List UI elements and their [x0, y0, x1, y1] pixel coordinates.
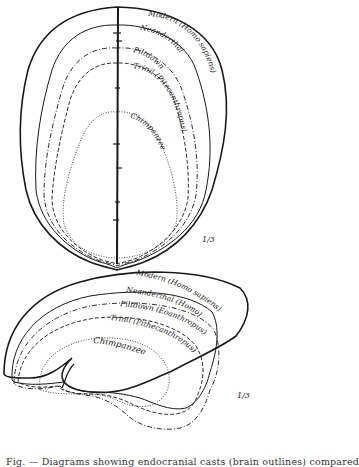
side-view-labels: Modern (Homo sapiens) Neanderthal (Homo)… — [93, 268, 224, 357]
figure-caption: Fig. — Diagrams showing endocranial cast… — [6, 456, 251, 467]
side-outline-modern — [4, 272, 248, 392]
top-view-diagram — [20, 7, 226, 270]
top-outline-piltdown — [44, 48, 197, 266]
side-outline-chimpanzee — [40, 338, 170, 407]
top-midline-fissure — [117, 8, 118, 264]
side-scale-label: 1/3 — [237, 391, 250, 400]
top-outline-modern — [20, 7, 226, 270]
top-view-labels: Modern (Homo sapiens) Neanderthal Piltdo… — [129, 9, 218, 152]
top-outline-neanderthal — [36, 25, 210, 268]
top-scale-label: 1/3 — [202, 235, 215, 244]
top-label-chimpanzee: Chimpanzee — [129, 111, 168, 151]
